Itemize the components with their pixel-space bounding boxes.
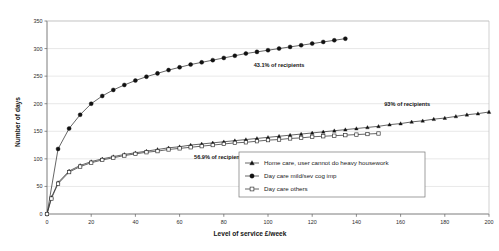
series-marker [189, 146, 192, 149]
legend-marker [250, 174, 254, 178]
series-marker [145, 151, 148, 154]
series-marker [45, 212, 48, 215]
series-marker [90, 161, 93, 164]
series-marker [288, 137, 291, 140]
series-marker [343, 37, 347, 41]
series-marker [344, 133, 347, 136]
y-tick-label: 0 [40, 211, 43, 217]
x-axis-title: Level of service £/week [214, 230, 287, 237]
series-marker [56, 182, 59, 185]
series-marker [266, 48, 270, 52]
series-marker [167, 68, 171, 72]
series-marker [288, 45, 292, 49]
series-marker [222, 56, 226, 60]
series-marker [355, 133, 358, 136]
chart-legend: Home care, user cannot do heavy housewor… [239, 152, 425, 197]
series-marker [244, 141, 247, 144]
x-tick-label: 60 [177, 219, 183, 225]
x-tick-label: 40 [132, 219, 138, 225]
y-axis-title: Number of days [14, 97, 22, 147]
series-marker [167, 148, 170, 151]
series-marker [377, 132, 380, 135]
series-marker [133, 79, 137, 83]
series-marker [56, 147, 60, 151]
series-marker [211, 58, 215, 62]
series-marker [366, 132, 369, 135]
series-marker [333, 134, 336, 137]
series-marker [178, 147, 181, 150]
y-tick-label: 200 [34, 101, 43, 107]
x-tick-label: 140 [352, 219, 361, 225]
series-marker [222, 142, 225, 145]
series-marker [310, 42, 314, 46]
series-marker [255, 140, 258, 143]
series-marker [332, 38, 336, 42]
series-marker [211, 143, 214, 146]
series-marker [255, 50, 259, 54]
series-marker [101, 158, 104, 161]
legend-label: Home care, user cannot do heavy housewor… [264, 159, 389, 166]
legend-marker [250, 187, 254, 191]
x-tick-label: 80 [221, 219, 227, 225]
series-marker [122, 83, 126, 87]
series-marker [266, 138, 269, 141]
series-marker [277, 138, 280, 141]
legend-label: Day care mild/sev cog imp [264, 172, 337, 179]
series-marker [50, 197, 53, 200]
legend-item-0[interactable]: Home care, user cannot do heavy housewor… [245, 159, 389, 166]
series-marker [189, 63, 193, 67]
series-marker [277, 47, 281, 51]
chart-background [0, 0, 499, 251]
chart-annotation-1: 93% of recipients [384, 101, 430, 107]
series-marker [100, 94, 104, 98]
series-marker [311, 135, 314, 138]
y-tick-label: 150 [34, 128, 43, 134]
series-marker [299, 43, 303, 47]
series-marker [299, 136, 302, 139]
series-marker [321, 40, 325, 44]
series-marker [244, 52, 248, 56]
chart-annotation-2: 56.9% of recipients [194, 154, 245, 160]
y-tick-label: 300 [34, 46, 43, 52]
x-tick-label: 120 [308, 219, 317, 225]
x-tick-label: 100 [264, 219, 273, 225]
line-chart-canvas: 050100150200250300350 020406080100120140… [0, 0, 499, 251]
series-marker [67, 170, 70, 173]
x-tick-label: 0 [46, 219, 49, 225]
series-marker [144, 75, 148, 79]
y-tick-label: 50 [37, 183, 43, 189]
chart-figure: 050100150200250300350 020406080100120140… [0, 0, 499, 251]
series-marker [112, 156, 115, 159]
series-marker [156, 149, 159, 152]
x-tick-label: 200 [485, 219, 494, 225]
series-marker [200, 60, 204, 64]
chart-annotation-0: 43.1% of recipients [254, 62, 305, 68]
y-tick-label: 100 [34, 156, 43, 162]
series-marker [67, 127, 71, 131]
series-marker [89, 102, 93, 106]
y-tick-label: 250 [34, 73, 43, 79]
series-marker [111, 88, 115, 92]
x-tick-label: 160 [396, 219, 405, 225]
series-marker [123, 154, 126, 157]
series-marker [233, 54, 237, 58]
x-tick-label: 180 [440, 219, 449, 225]
series-marker [322, 135, 325, 138]
series-marker [134, 152, 137, 155]
series-marker [78, 165, 81, 168]
x-tick-label: 20 [88, 219, 94, 225]
series-marker [233, 141, 236, 144]
series-marker [78, 113, 82, 117]
series-marker [155, 71, 159, 75]
series-marker [178, 65, 182, 69]
legend-label: Day care others [264, 185, 308, 192]
series-marker [200, 144, 203, 147]
y-tick-label: 350 [34, 18, 43, 24]
